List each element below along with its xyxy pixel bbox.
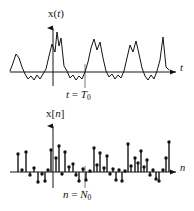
stem (46, 168, 49, 172)
continuous-signal-label: x(t) (48, 8, 64, 19)
discrete-time-plot (10, 126, 176, 188)
stem (139, 149, 142, 172)
stem (98, 151, 101, 172)
stem (88, 169, 91, 172)
stem (148, 172, 151, 177)
index-marker-label: n = N0 (63, 189, 91, 201)
stem (67, 165, 70, 172)
stem (92, 146, 95, 172)
dt-stems (16, 140, 170, 183)
stem (40, 172, 43, 176)
stem (126, 142, 129, 172)
stem (164, 156, 167, 172)
time-axis-label: t (180, 63, 183, 74)
stem (151, 168, 154, 172)
ct-waveform (10, 32, 169, 80)
stem (43, 172, 46, 183)
stem (49, 148, 52, 172)
stem (74, 172, 77, 177)
stem (77, 172, 80, 183)
stem (71, 162, 74, 172)
stem (157, 172, 160, 183)
stem (105, 154, 108, 172)
stem (60, 172, 63, 176)
index-axis-label: n (180, 163, 185, 174)
discrete-signal-label: x[n] (46, 108, 64, 119)
stem (54, 156, 57, 172)
stem (32, 166, 35, 172)
stem (111, 167, 114, 172)
stem (117, 168, 120, 172)
stem (81, 167, 84, 172)
stem (108, 172, 111, 176)
stem (28, 172, 31, 177)
stem (142, 165, 145, 172)
continuous-time-plot (10, 28, 176, 88)
stem (129, 164, 132, 172)
stem (36, 172, 39, 184)
stem (167, 140, 170, 172)
stem (102, 166, 105, 172)
time-marker-label: t = T0 (66, 89, 91, 101)
signal-plot-canvas (0, 0, 194, 211)
stem (133, 156, 136, 172)
stem (95, 163, 98, 172)
stem (20, 168, 23, 172)
stem (24, 150, 27, 172)
stem (154, 172, 157, 181)
stem (16, 152, 19, 172)
signal-figure: x(t) t t = T0 x[n] n n = N0 (0, 0, 194, 211)
stem (161, 168, 164, 172)
stem (114, 172, 117, 182)
stem (120, 172, 123, 183)
stem (136, 161, 139, 172)
stem (145, 158, 148, 172)
stem (57, 144, 60, 172)
stem (123, 169, 126, 172)
stem (63, 150, 66, 172)
